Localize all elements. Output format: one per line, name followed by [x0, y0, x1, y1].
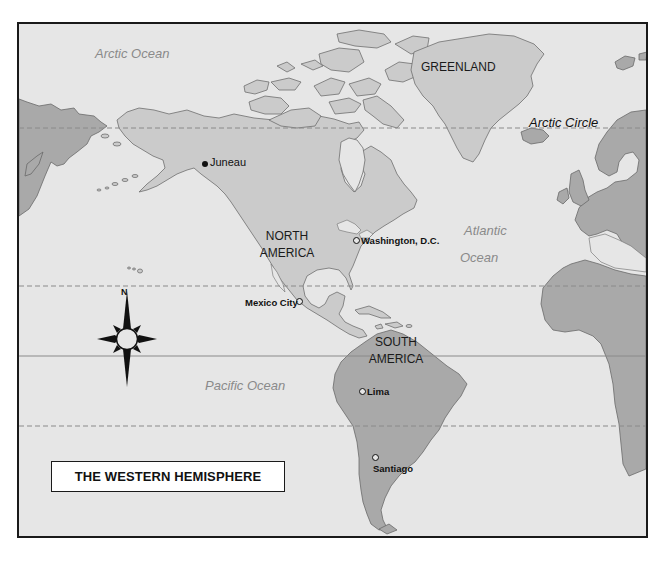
compass-rose-icon	[97, 289, 157, 389]
santiago-label: Santiago	[373, 463, 413, 474]
north-america-label: NORTH AMERICA	[257, 228, 317, 262]
washington-label: Washington, D.C.	[361, 235, 439, 246]
mexico-city-label: Mexico City	[245, 297, 298, 308]
hawaii-islands	[128, 267, 143, 273]
north-america-label-line1: NORTH	[257, 228, 317, 245]
map-title-box: THE WESTERN HEMISPHERE	[51, 461, 285, 492]
arctic-circle-label: Arctic Circle	[529, 115, 598, 130]
juneau-label: Juneau	[210, 156, 246, 168]
british-isles	[557, 170, 589, 206]
atlantic-ocean-label-line1: Atlantic	[464, 223, 507, 238]
north-america-label-line2: AMERICA	[257, 245, 317, 262]
pacific-ocean-label: Pacific Ocean	[205, 378, 285, 393]
greenland-landmass	[411, 34, 544, 162]
caribbean-islands	[355, 306, 412, 329]
juneau-marker	[202, 161, 208, 167]
map-frame: Arctic Ocean Atlantic Ocean Pacific Ocea…	[17, 22, 648, 538]
south-america-label-line2: AMERICA	[366, 351, 426, 368]
map-canvas	[19, 24, 646, 536]
africa-landmass	[541, 260, 646, 476]
lima-label: Lima	[367, 386, 389, 397]
south-america-label-line1: SOUTH	[366, 334, 426, 351]
iceland-landmass	[521, 128, 549, 144]
map-title: THE WESTERN HEMISPHERE	[75, 469, 261, 484]
south-america-label: SOUTH AMERICA	[366, 334, 426, 368]
svalbard-landmass	[615, 52, 646, 70]
greenland-label: GREENLAND	[421, 59, 496, 76]
santiago-marker	[372, 454, 379, 461]
arctic-ocean-label: Arctic Ocean	[95, 46, 169, 61]
lima-marker	[359, 388, 366, 395]
arctic-archipelago	[244, 30, 429, 128]
washington-marker	[353, 237, 360, 244]
siberia-landmass	[19, 99, 107, 216]
atlantic-ocean-label-line2: Ocean	[460, 250, 498, 265]
